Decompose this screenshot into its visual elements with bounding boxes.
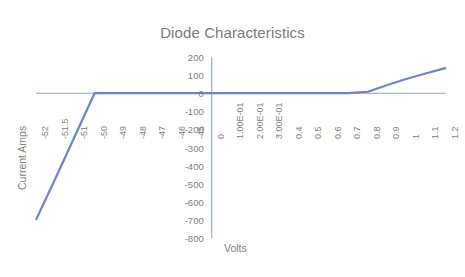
x-tick-label: 1.00E-01	[235, 103, 245, 140]
x-tick-label: -52	[40, 126, 50, 139]
x-axis-title: Volts	[224, 242, 247, 254]
y-tick-label: -600	[174, 196, 204, 207]
y-axis-title: Current Amps	[16, 126, 28, 190]
x-tick-label: -49	[118, 126, 128, 139]
y-tick-label: 200	[174, 52, 204, 63]
y-tick-label: -700	[174, 214, 204, 225]
x-tick-label: 1.2	[450, 127, 460, 140]
x-tick-label: -46	[177, 126, 187, 139]
y-tick-label: 0	[174, 88, 204, 99]
x-tick-label: -51	[79, 126, 89, 139]
x-tick-label: 0.6	[333, 127, 343, 140]
y-tick-label: -100	[174, 106, 204, 117]
y-tick-label: -400	[174, 160, 204, 171]
series-svg	[36, 57, 446, 238]
x-tick-label: -47	[157, 126, 167, 139]
x-tick-label: 0.7	[352, 127, 362, 140]
x-tick-label: 1.1	[430, 127, 440, 140]
data-series-line	[36, 68, 446, 220]
x-tick-label: -51.5	[60, 119, 70, 140]
plot-area	[36, 57, 446, 238]
x-tick-label: 0.5	[313, 127, 323, 140]
x-tick-label: 0.8	[372, 127, 382, 140]
x-tick-label: 0.9	[391, 127, 401, 140]
y-tick-label: -300	[174, 142, 204, 153]
x-tick-label: -50	[99, 126, 109, 139]
y-tick-label: 100	[174, 70, 204, 81]
x-tick-label: 0	[216, 134, 226, 139]
x-tick-label: 3.00E-01	[274, 103, 284, 140]
x-tick-label: -48	[138, 126, 148, 139]
chart-container: Diode Characteristics Current Amps Volts…	[0, 0, 465, 277]
x-tick-label: 2.00E-01	[255, 103, 265, 140]
x-tick-label: 1	[411, 134, 421, 139]
chart-title: Diode Characteristics	[0, 24, 465, 41]
x-tick-label: 0.4	[294, 127, 304, 140]
y-tick-label: -500	[174, 178, 204, 189]
x-tick-label: -45	[196, 126, 206, 139]
y-tick-label: -800	[174, 233, 204, 244]
